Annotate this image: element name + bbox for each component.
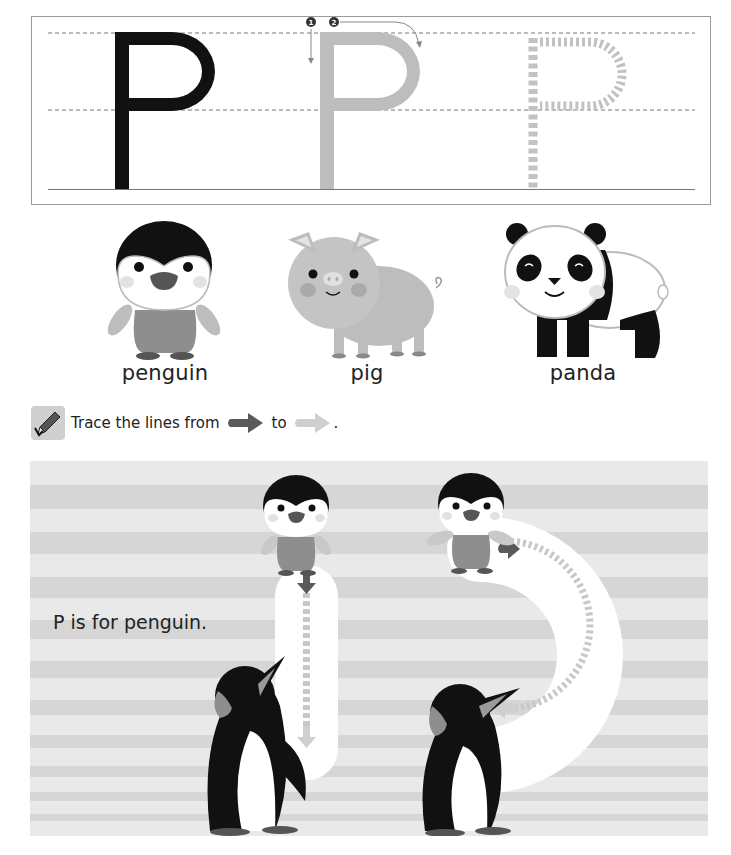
letter-p-black [115, 32, 215, 189]
instruction-text-middle: to [272, 414, 287, 432]
stroke-order-1: 1 [306, 17, 316, 64]
label-panda: panda [513, 361, 653, 385]
instruction-text-after: . [334, 414, 339, 432]
pencil-icon [31, 406, 65, 440]
label-pig: pig [297, 361, 437, 385]
arrow-end-icon [293, 412, 333, 434]
instruction-row: Trace the lines from to . [31, 406, 344, 440]
letter-trace-graphic: 1 2 [0, 0, 731, 210]
svg-text:2: 2 [332, 19, 337, 27]
penguin-chick-illustration [100, 218, 230, 363]
svg-text:1: 1 [309, 19, 314, 27]
pig-illustration [284, 228, 449, 360]
label-penguin: penguin [95, 361, 235, 385]
letter-p-dotted [5, 0, 623, 189]
practice-panel [30, 461, 708, 836]
practice-caption: P is for penguin. [53, 611, 207, 633]
instruction-text-before: Trace the lines from [71, 414, 220, 432]
arrow-start-icon [226, 412, 266, 434]
panda-illustration [495, 220, 670, 360]
